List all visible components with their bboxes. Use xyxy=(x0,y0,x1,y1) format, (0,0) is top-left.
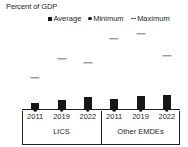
marker-maximum xyxy=(31,77,40,78)
x-tick-label: 2022 xyxy=(79,113,96,121)
marker-maximum xyxy=(162,55,171,56)
x-tick-label: 2019 xyxy=(53,113,70,121)
x-tick-label: 2019 xyxy=(132,113,149,121)
x-tick-label: 2011 xyxy=(27,113,43,121)
chart-axis-title: Percent of GDP xyxy=(6,2,57,11)
marker-maximum xyxy=(110,38,119,39)
x-tick-label: 2011 xyxy=(106,113,122,121)
plot-area: 024681012 xyxy=(22,20,180,110)
marker-maximum xyxy=(83,62,92,63)
group-label: LICS xyxy=(53,128,70,136)
marker-maximum xyxy=(136,33,145,34)
x-tick-label: 2022 xyxy=(158,113,175,121)
group-divider xyxy=(101,111,102,145)
axis-baseline xyxy=(22,109,180,110)
x-axis-band: 201120192022201120192022LICSOther EMDEs xyxy=(22,111,180,145)
marker-maximum xyxy=(57,58,66,59)
chart-container: Percent of GDP Average Minimum Maximum 0… xyxy=(0,0,188,147)
group-label: Other EMDEs xyxy=(117,128,163,136)
